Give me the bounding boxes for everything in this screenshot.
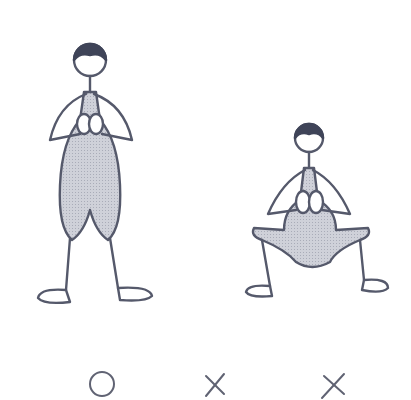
- marks: [90, 372, 344, 398]
- body-shape: [253, 168, 369, 267]
- illustration: [0, 0, 411, 400]
- head-icon: [295, 124, 323, 152]
- circle-mark-icon: [90, 372, 114, 396]
- body-shape: [60, 92, 121, 240]
- standing-figure: [38, 44, 152, 303]
- cross-mark-icon: [206, 374, 224, 396]
- head-icon: [74, 44, 106, 76]
- squat-figure: [246, 124, 388, 297]
- cross-mark-icon: [322, 374, 344, 398]
